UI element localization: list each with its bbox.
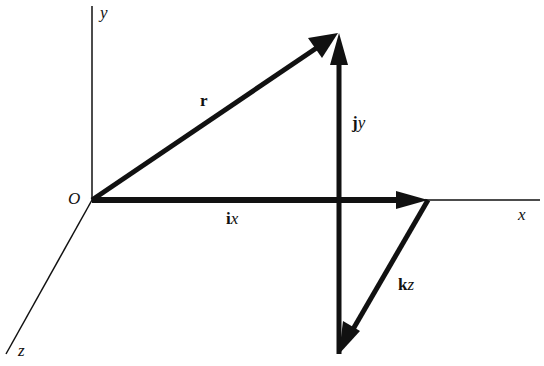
- vector-diagram: [0, 0, 544, 366]
- vector-ix: [92, 191, 428, 209]
- y-axis-label: y: [100, 4, 108, 21]
- vector-kz: [339, 200, 428, 354]
- vector-kz-label: kz: [398, 276, 414, 293]
- origin-label: O: [68, 190, 80, 207]
- vector-r: [92, 33, 338, 200]
- vector-jy: [330, 33, 348, 354]
- vector-ix-scalar: x: [231, 209, 239, 228]
- vector-ix-label: ix: [226, 210, 238, 227]
- vector-jy-label: jy: [352, 114, 365, 131]
- vector-jy-scalar: y: [358, 113, 366, 132]
- z-axis: [6, 200, 92, 354]
- x-axis-label: x: [518, 206, 526, 223]
- vector-kz-scalar: z: [407, 275, 414, 294]
- vector-r-label: r: [200, 92, 208, 109]
- z-axis-label: z: [18, 342, 25, 359]
